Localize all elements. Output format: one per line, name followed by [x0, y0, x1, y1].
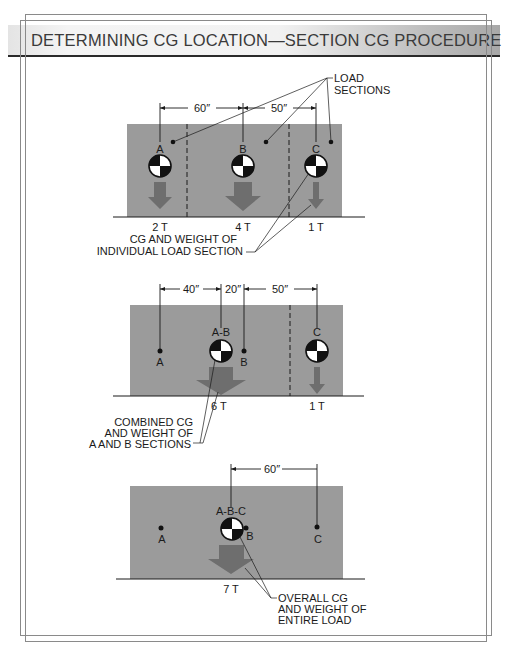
- point-label: A: [158, 533, 166, 545]
- panel-combined-ab: 40″ 20″ 50″ A B A-B C 6 T 1 T COMBINED C…: [89, 283, 364, 450]
- cg-symbol-icon: [221, 518, 243, 540]
- callout-combined: A AND B SECTIONS: [89, 438, 191, 450]
- cg-symbol-icon: [210, 340, 232, 362]
- point-dot-icon: [159, 526, 164, 531]
- weight-label: 1 T: [308, 221, 324, 233]
- point-label: B: [246, 530, 253, 542]
- panel-individual-sections: 60″ 50″ LOAD SECTIONS A B C 2 T 4 T 1 T: [97, 72, 391, 257]
- cg-label: A-B: [212, 326, 230, 338]
- dimension-label: 20″: [225, 283, 241, 295]
- point-dot-icon: [242, 349, 247, 354]
- weight-label: 7 T: [223, 583, 239, 595]
- cg-symbol-icon: [149, 155, 171, 177]
- dimension-label: 50″: [271, 102, 287, 114]
- cg-procedure-diagram: 60″ 50″ LOAD SECTIONS A B C 2 T 4 T 1 T: [0, 0, 511, 652]
- point-dot-icon: [315, 525, 320, 530]
- cg-symbol-icon: [306, 340, 328, 362]
- weight-label: 1 T: [309, 400, 325, 412]
- weight-label: 6 T: [211, 400, 227, 412]
- point-label: B: [240, 356, 247, 368]
- point-label: C: [314, 533, 322, 545]
- cg-label: C: [313, 326, 321, 338]
- point-label: A: [156, 356, 164, 368]
- callout-cg-weight: INDIVIDUAL LOAD SECTION: [97, 245, 243, 257]
- dimension-label: 50″: [272, 283, 288, 295]
- weight-label: 4 T: [235, 221, 251, 233]
- weight-label: 2 T: [152, 221, 168, 233]
- callout-load-sections: SECTIONS: [334, 84, 390, 96]
- dimension-label: 60″: [194, 102, 210, 114]
- cg-label: A: [156, 143, 164, 155]
- cg-label: C: [312, 143, 320, 155]
- cg-label: B: [239, 143, 246, 155]
- callout-cg-weight: CG AND WEIGHT OF: [130, 233, 238, 245]
- panel-overall: 60″ A B C A-B-C 7 T OVERALL CG AND WEIGH…: [116, 463, 367, 626]
- dimension-label: 60″: [264, 463, 280, 475]
- point-dot-icon: [158, 349, 163, 354]
- callout-overall: ENTIRE LOAD: [278, 614, 351, 626]
- dimension-label: 40″: [183, 283, 199, 295]
- callout-load-sections: LOAD: [334, 72, 364, 84]
- cg-symbol-icon: [232, 155, 254, 177]
- cg-label: A-B-C: [216, 505, 246, 517]
